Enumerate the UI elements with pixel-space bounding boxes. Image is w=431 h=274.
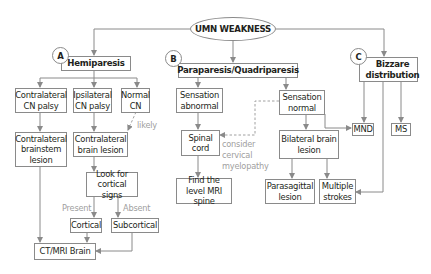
edge-label-absent: Absent (123, 203, 150, 214)
node-look-for-cortical-signs: Look for cortical signs (86, 172, 138, 197)
node-contralateral-brainstem-lesion: Contralateral brainstem lesion (15, 132, 67, 167)
branch-bizzare-distribution: Bizzare distribution (359, 57, 418, 82)
node-subcortical: Subcortical (111, 218, 159, 233)
marker-a-badge: A (52, 47, 69, 64)
edge-label-likely: likely (137, 120, 157, 131)
node-parasagittal-lesion: Parasagittal lesion (265, 179, 315, 204)
marker-b-badge: B (165, 50, 182, 67)
branch-hemiparesis: Hemiparesis (61, 56, 131, 71)
node-ms: MS (391, 123, 411, 136)
node-spinal-cord: Spinal cord (181, 130, 220, 156)
node-contralateral-brain-lesion: Contralateral brain lesion (73, 132, 128, 157)
edge-label-cervical: cervical (222, 150, 252, 161)
node-sensation-abnormal: Sensation abnormal (176, 88, 223, 113)
branch-paraparesis-quadriparesis: Paraparesis/Quadriparesis (178, 63, 298, 78)
node-ct-mri-brain: CT/MRI Brain (34, 243, 96, 260)
node-multiple-strokes: Multiple strokes (319, 179, 356, 204)
umn-weakness-flowchart: UMN WEAKNESS Hemiparesis A Paraparesis/Q… (0, 0, 431, 274)
edge-label-present: Present (62, 203, 91, 214)
node-contralateral-cn-palsy: Contralateral CN palsy (15, 88, 67, 113)
node-normal-cn: Normal CN (121, 88, 150, 113)
marker-c-badge: C (350, 48, 367, 65)
node-ipsilateral-cn-palsy: Ipsilateral CN palsy (73, 88, 112, 113)
edge-label-consider: consider (222, 139, 255, 150)
root-umn-weakness: UMN WEAKNESS (190, 17, 276, 41)
node-cortical: Cortical (70, 218, 102, 233)
node-find-level-mri-spine: Find the level MRI spine (176, 178, 232, 204)
node-mnd: MND (352, 123, 374, 136)
edge-label-myelopathy: myelopathy (222, 161, 269, 172)
node-sensation-normal: Sensation normal (279, 90, 325, 115)
node-bilateral-brain-lesion: Bilateral brain lesion (279, 130, 339, 159)
